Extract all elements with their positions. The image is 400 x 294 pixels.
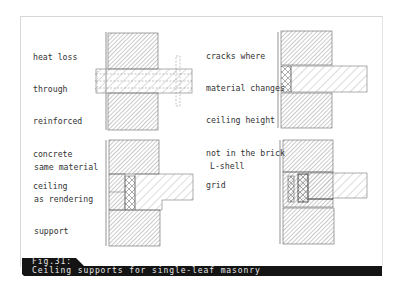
diagram-l-shell	[280, 140, 367, 244]
label-l-shell: L-shell	[210, 139, 245, 182]
label-rendering-support: same material as rendering support	[34, 140, 98, 248]
figure-caption: Ceiling supports for single-leaf masonry	[32, 266, 261, 275]
figure-number: Fig.31:	[32, 257, 72, 266]
diagram-heat-loss	[95, 32, 192, 130]
diagram-cracks	[278, 31, 367, 128]
diagram-rendering-support	[106, 140, 193, 246]
